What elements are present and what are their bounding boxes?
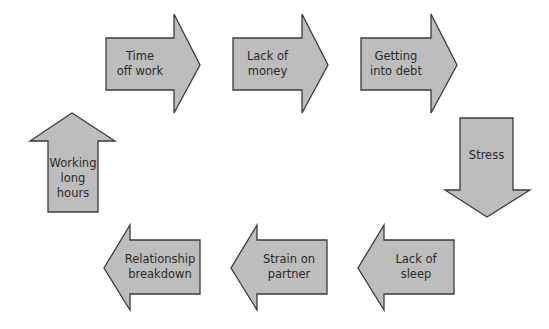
label-lack-of-sleep: Lack of sleep: [378, 240, 454, 294]
label-lack-of-money: Lack of money: [233, 38, 302, 90]
label-relationship-breakdown: Relationship breakdown: [120, 240, 200, 294]
label-getting-into-debt: Getting into debt: [361, 38, 431, 90]
label-strain-on-partner: Strain on partner: [251, 240, 327, 294]
label-stress: Stress: [460, 140, 513, 170]
label-working-long-hours: Working long hours: [48, 148, 98, 208]
label-time-off-work: Time off work: [106, 38, 174, 90]
